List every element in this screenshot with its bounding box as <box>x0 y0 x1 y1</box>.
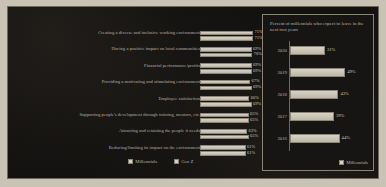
bar-genz <box>200 69 252 74</box>
category-row: Attracting and retaining the people it n… <box>12 127 264 142</box>
bar-genz <box>200 86 252 91</box>
year-label: 2018 <box>270 92 287 97</box>
bar-value-year: 31% <box>327 47 335 52</box>
legend-swatch-icon <box>339 160 344 165</box>
year-label: 2017 <box>270 114 287 119</box>
bar-value-genz: 61% <box>247 151 255 156</box>
category-label: Creating a diverse and inclusive working… <box>30 30 200 35</box>
bar-millennials-year <box>290 68 345 77</box>
workplace-priorities-bar-chart: Creating a diverse and inclusive working… <box>12 11 264 175</box>
category-label: Attracting and retaining the people it n… <box>30 128 200 133</box>
bar-value-genz: 69% <box>253 85 261 90</box>
category-label: Providing a motivating and stimulating e… <box>30 79 200 84</box>
category-row: Providing a motivating and stimulating e… <box>12 78 264 93</box>
bar-group: 69%70% <box>200 45 260 60</box>
chart-figure: Creating a diverse and inclusive working… <box>7 6 379 179</box>
bar-millennials <box>200 47 252 52</box>
bar-group: 66%69% <box>200 95 260 110</box>
legend-label: Millennials <box>346 160 368 165</box>
bar-millennials <box>200 80 250 85</box>
bar-millennials-year <box>290 134 340 143</box>
bar-group: 67%69% <box>200 78 260 93</box>
bar-group: 61%61% <box>200 144 260 159</box>
bar-millennials <box>200 63 252 68</box>
bar-value-year: 49% <box>347 69 355 74</box>
year-row: 201739% <box>270 107 369 129</box>
right-chart-legend: Millennials <box>339 160 368 165</box>
right-chart-title: Percent of millennials who expect to lea… <box>270 21 368 34</box>
bar-value-genz: 69% <box>253 102 261 107</box>
bar-value-millennials: 69% <box>253 63 261 68</box>
bar-group: 69%69% <box>200 62 260 77</box>
category-label: Reducing/limiting its impact on the envi… <box>30 145 200 150</box>
bar-genz <box>200 118 249 123</box>
bar-millennials <box>200 113 249 118</box>
bar-group: 65%65% <box>200 111 260 126</box>
category-row: Reducing/limiting its impact on the envi… <box>12 144 264 159</box>
bar-value-year: 44% <box>342 135 350 140</box>
bar-value-genz: 70% <box>254 52 262 57</box>
year-row: 201949% <box>270 63 369 85</box>
year-label: 2016 <box>270 136 287 141</box>
bar-millennials <box>200 145 246 150</box>
bar-value-genz: 65% <box>250 118 258 123</box>
year-row: 202031% <box>270 41 369 63</box>
category-label: Having a positive impact on local commun… <box>30 46 200 51</box>
category-label: Employee satisfaction <box>30 96 200 101</box>
category-row: Having a positive impact on local commun… <box>12 45 264 60</box>
bar-millennials <box>200 31 253 36</box>
bar-genz <box>200 135 249 140</box>
bar-value-millennials: 61% <box>247 145 255 150</box>
right-chart-plot: 202031%201949%201843%201739%201644% <box>270 41 369 151</box>
year-label: 2020 <box>270 48 287 53</box>
category-row: Creating a diverse and inclusive working… <box>12 29 264 44</box>
bar-genz <box>200 151 246 156</box>
bar-value-genz: 69% <box>253 69 261 74</box>
bar-millennials-year <box>290 112 334 121</box>
year-row: 201843% <box>270 85 369 107</box>
chart-page: Creating a diverse and inclusive working… <box>0 0 386 187</box>
category-row: Employee satisfaction66%69% <box>12 95 264 110</box>
bar-genz <box>200 36 253 41</box>
bar-value-year: 39% <box>336 113 344 118</box>
category-label: Supporting people's development through … <box>30 112 200 117</box>
bar-millennials-year <box>290 90 338 99</box>
bar-value-year: 43% <box>340 91 348 96</box>
legend-item: Millennials <box>339 160 368 165</box>
bar-value-millennials: 66% <box>251 96 259 101</box>
bar-genz <box>200 102 252 107</box>
legend-swatch-icon <box>128 159 133 164</box>
legend-item: Millennials <box>128 159 157 164</box>
year-label: 2019 <box>270 70 287 75</box>
legend-swatch-icon <box>174 159 179 164</box>
millennial-attrition-panel: Percent of millennials who expect to lea… <box>262 14 374 171</box>
category-row: Supporting people's development through … <box>12 111 264 126</box>
legend-label: Millennials <box>135 159 157 164</box>
bar-millennials <box>200 129 247 134</box>
category-label: Financial performance/profits <box>30 63 200 68</box>
bar-millennials-year <box>290 46 325 55</box>
bar-group: 71%71% <box>200 29 260 44</box>
bar-genz <box>200 53 252 58</box>
bar-millennials <box>200 96 249 101</box>
left-chart-legend: MillennialsGen Z <box>128 159 193 164</box>
legend-item: Gen Z <box>174 159 193 164</box>
bar-value-genz: 65% <box>250 134 258 139</box>
bar-group: 63%65% <box>200 127 260 142</box>
legend-label: Gen Z <box>181 159 193 164</box>
year-row: 201644% <box>270 129 369 151</box>
category-row: Financial performance/profits69%69% <box>12 62 264 77</box>
